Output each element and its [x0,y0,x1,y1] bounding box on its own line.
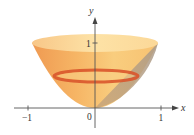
origin-label: 0 [87,112,92,122]
x-tick-label-1: 1 [159,113,164,123]
paraboloid-diagram: y x 1 −1 1 0 [0,0,194,135]
washer-ring-inner [58,72,134,80]
paraboloid-figure: y x 1 −1 1 0 [0,0,194,135]
x-tick-label-neg1: −1 [22,113,32,123]
x-axis-label: x [180,102,186,113]
y-axis-label: y [88,5,94,16]
x-axis-arrow-icon [172,106,179,111]
y-axis-arrow-icon [93,17,98,24]
y-tick-label-1: 1 [86,39,91,49]
